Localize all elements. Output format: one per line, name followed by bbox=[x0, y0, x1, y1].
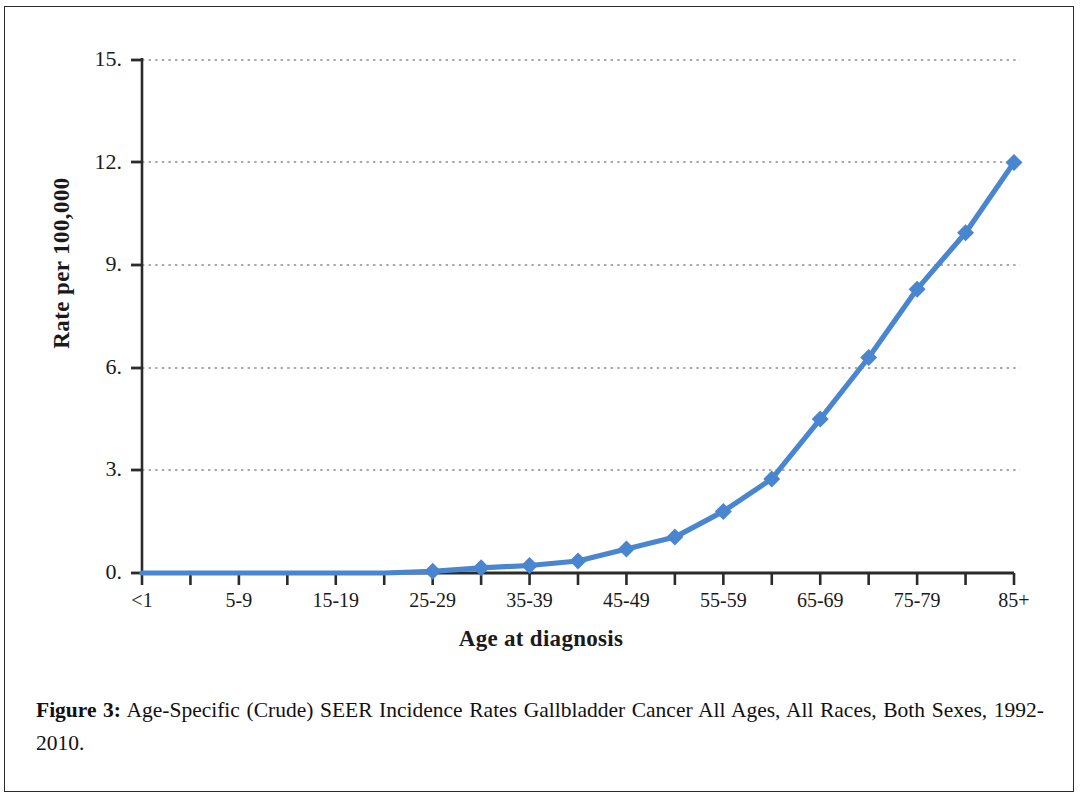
y-tick-label-6: 6. bbox=[62, 354, 122, 380]
x-tick-label-55-59: 55-59 bbox=[678, 589, 768, 612]
x-tick-label-65-69: 65-69 bbox=[775, 589, 865, 612]
line-chart bbox=[0, 0, 1082, 690]
y-tick-label-0: 0. bbox=[62, 559, 122, 585]
y-tick-label-15: 15. bbox=[62, 46, 122, 72]
x-tick-label-75-79: 75-79 bbox=[872, 589, 962, 612]
figure-caption-text: Age-Specific (Crude) SEER Incidence Rate… bbox=[36, 698, 1044, 755]
y-tick-label-3: 3. bbox=[62, 456, 122, 482]
figure-caption-label: Figure 3: bbox=[36, 698, 121, 722]
data-point-45-49 bbox=[618, 541, 635, 558]
x-tick-label-35-39: 35-39 bbox=[485, 589, 575, 612]
gridlines bbox=[142, 60, 1020, 470]
y-tick-label-12: 12. bbox=[62, 149, 122, 175]
data-point-40-44 bbox=[570, 553, 587, 570]
x-axis-title: Age at diagnosis bbox=[0, 626, 1082, 652]
series-markers bbox=[424, 154, 1022, 580]
data-point-35-39 bbox=[521, 557, 538, 574]
chart-figure: Rate per 100,000 Age at diagnosis 0.3.6.… bbox=[0, 0, 1082, 690]
x-tick-label-5-9: 5-9 bbox=[194, 589, 284, 612]
data-series bbox=[142, 154, 1023, 580]
data-point-25-29 bbox=[424, 563, 441, 580]
x-tick-label-<1: <1 bbox=[97, 589, 187, 612]
y-tick-label-9: 9. bbox=[62, 251, 122, 277]
x-tick-label-85+: 85+ bbox=[969, 589, 1059, 612]
figure-page: Rate per 100,000 Age at diagnosis 0.3.6.… bbox=[0, 0, 1082, 801]
x-tick-label-15-19: 15-19 bbox=[291, 589, 381, 612]
y-axis bbox=[131, 58, 142, 574]
figure-caption: Figure 3: Age-Specific (Crude) SEER Inci… bbox=[36, 694, 1044, 760]
x-tick-label-25-29: 25-29 bbox=[388, 589, 478, 612]
x-tick-label-45-49: 45-49 bbox=[581, 589, 671, 612]
